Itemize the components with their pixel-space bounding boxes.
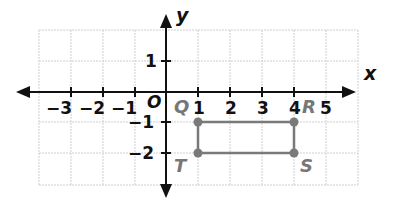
point-s (290, 149, 299, 158)
point-q (194, 118, 203, 127)
label-t: T (174, 155, 188, 176)
label-r: R (302, 96, 316, 117)
svg-text:−2: −2 (79, 98, 105, 118)
svg-text:−1: −1 (128, 112, 154, 132)
svg-text:5: 5 (320, 98, 332, 118)
rectangle-qrst (194, 118, 299, 158)
svg-text:1: 1 (193, 98, 205, 118)
svg-text:−2: −2 (128, 143, 154, 163)
origin-label: O (147, 92, 161, 112)
y-axis-down-arrow-icon (160, 184, 172, 198)
y-axis-label: y (176, 4, 190, 26)
x-axis-right-arrow-icon (342, 86, 356, 98)
y-axis-up-arrow-icon (160, 14, 172, 28)
x-axis-label: x (363, 62, 377, 84)
svg-text:2: 2 (225, 98, 237, 118)
svg-text:1: 1 (145, 51, 157, 71)
svg-text:4: 4 (289, 98, 301, 118)
coordinate-plane: y x −3 −2 −1 1 2 3 4 5 O 1 −1 −2 Q R S T (0, 0, 399, 206)
svg-text:−3: −3 (46, 98, 72, 118)
x-axis-left-arrow-icon (16, 86, 30, 98)
label-q: Q (174, 96, 189, 117)
svg-text:3: 3 (257, 98, 269, 118)
point-t (194, 149, 203, 158)
point-r (290, 118, 299, 127)
label-s: S (300, 155, 313, 176)
y-axis (160, 14, 172, 198)
